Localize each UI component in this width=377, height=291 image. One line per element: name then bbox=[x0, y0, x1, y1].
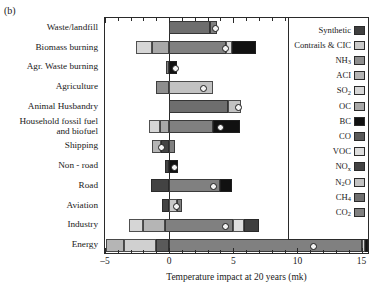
axis-tick bbox=[297, 248, 298, 254]
net-value-marker bbox=[158, 144, 165, 151]
axis-tick bbox=[118, 17, 119, 21]
legend-item: SO2 bbox=[337, 85, 365, 97]
axis-tick bbox=[118, 250, 119, 254]
bar-segment bbox=[244, 219, 259, 232]
axis-tick bbox=[310, 250, 311, 254]
axis-tick bbox=[169, 248, 170, 254]
axis-tick bbox=[285, 250, 286, 254]
legend-label: CH4 bbox=[336, 193, 351, 202]
bar-segment bbox=[169, 41, 225, 54]
axis-tick bbox=[169, 17, 170, 23]
legend-item: CH4 bbox=[336, 191, 365, 203]
axis-tick bbox=[259, 250, 260, 254]
bar-segment bbox=[169, 21, 210, 34]
net-value-marker bbox=[200, 85, 207, 92]
legend-item: Contrails & CIC bbox=[294, 39, 365, 51]
category-label: Shipping bbox=[65, 140, 98, 150]
bar-segment bbox=[220, 179, 232, 192]
axis-tick bbox=[349, 250, 350, 254]
legend-label: NOx bbox=[335, 162, 351, 171]
bar-segment bbox=[149, 120, 161, 133]
axis-tick bbox=[143, 250, 144, 254]
category-label: Non - road bbox=[58, 160, 98, 170]
net-value-marker bbox=[222, 45, 229, 52]
legend-label: CO2 bbox=[336, 208, 351, 217]
bar-segment bbox=[156, 81, 169, 94]
x-axis-title: Temperature impact at 20 years (mk) bbox=[104, 272, 369, 282]
bar-segment bbox=[169, 120, 213, 133]
axis-tick bbox=[233, 248, 234, 254]
legend-label: Synthetic bbox=[319, 26, 351, 35]
axis-tick bbox=[272, 250, 273, 254]
axis-tick bbox=[259, 17, 260, 21]
legend-color-swatch bbox=[354, 71, 365, 80]
legend-label: BC bbox=[340, 117, 351, 126]
bar-segment bbox=[152, 41, 169, 54]
bar-segment bbox=[233, 219, 243, 232]
x-tick-label: 5 bbox=[231, 256, 236, 266]
x-tick-label: 0 bbox=[167, 256, 172, 266]
legend-color-swatch bbox=[354, 41, 365, 50]
bar-segment bbox=[143, 219, 165, 232]
legend-item: Synthetic bbox=[319, 24, 365, 36]
legend-item: VOC bbox=[333, 146, 365, 158]
axis-tick bbox=[208, 250, 209, 254]
x-tick-label: 15 bbox=[357, 256, 367, 266]
bar-segment bbox=[151, 179, 169, 192]
x-tick-label: –5 bbox=[100, 256, 110, 266]
net-value-marker bbox=[222, 223, 229, 230]
panel-label: (b) bbox=[4, 5, 16, 16]
category-label: Agr. Waste burning bbox=[27, 61, 98, 71]
legend-color-swatch bbox=[354, 208, 365, 217]
legend-label: Contrails & CIC bbox=[294, 41, 351, 50]
category-label: Energy bbox=[72, 239, 98, 249]
bar-segment bbox=[160, 120, 169, 133]
legend-item: OC bbox=[339, 100, 365, 112]
axis-tick bbox=[362, 248, 363, 254]
legend-color-swatch bbox=[354, 56, 365, 65]
category-axis-labels: Waste/landfillBiomass burningAgr. Waste … bbox=[0, 17, 101, 254]
bar-segment bbox=[365, 239, 368, 252]
bar-segment bbox=[106, 239, 124, 252]
bar-segment bbox=[129, 219, 143, 232]
legend-color-swatch bbox=[354, 147, 365, 156]
net-value-marker bbox=[212, 25, 219, 32]
bar-segment bbox=[124, 239, 156, 252]
legend-item: ACI bbox=[336, 70, 365, 82]
category-label: Road bbox=[79, 180, 98, 190]
axis-tick bbox=[131, 250, 132, 254]
bar-segment bbox=[232, 41, 256, 54]
legend-label: ACI bbox=[336, 71, 351, 80]
legend-color-swatch bbox=[354, 162, 365, 171]
net-value-marker bbox=[310, 243, 317, 250]
axis-tick bbox=[143, 17, 144, 21]
net-value-marker bbox=[172, 65, 179, 72]
legend-color-swatch bbox=[354, 193, 365, 202]
category-label: Aviation bbox=[67, 200, 98, 210]
axis-tick bbox=[220, 250, 221, 254]
legend-item: CO bbox=[339, 130, 365, 142]
axis-tick bbox=[131, 17, 132, 21]
category-label: Animal Husbandry bbox=[28, 101, 98, 111]
legend: SyntheticContrails & CICNH3ACISO2OCBCCOV… bbox=[288, 17, 369, 240]
axis-tick bbox=[195, 17, 196, 21]
axis-tick bbox=[208, 17, 209, 21]
axis-tick bbox=[220, 17, 221, 21]
axis-tick bbox=[182, 250, 183, 254]
legend-color-swatch bbox=[354, 26, 365, 35]
net-value-marker bbox=[217, 124, 224, 131]
axis-tick bbox=[195, 250, 196, 254]
bar-segment bbox=[162, 199, 169, 212]
net-value-marker bbox=[171, 164, 178, 171]
legend-label: NH3 bbox=[335, 56, 351, 65]
legend-color-swatch bbox=[354, 86, 365, 95]
axis-tick bbox=[323, 250, 324, 254]
legend-color-swatch bbox=[354, 102, 365, 111]
bar-segment bbox=[169, 239, 361, 252]
category-label: Agriculture bbox=[56, 81, 98, 91]
axis-tick bbox=[336, 250, 337, 254]
axis-tick bbox=[156, 17, 157, 21]
legend-item: N2O bbox=[335, 176, 365, 188]
legend-item: CO2 bbox=[336, 206, 365, 218]
axis-tick bbox=[182, 17, 183, 21]
